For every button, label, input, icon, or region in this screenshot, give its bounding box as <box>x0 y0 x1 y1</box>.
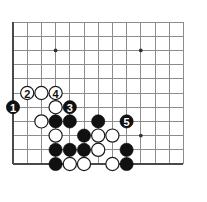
stone-black[interactable]: 5 <box>120 115 133 128</box>
stone-white[interactable] <box>92 143 105 156</box>
move-number-label: 5 <box>124 116 130 128</box>
stone-white[interactable] <box>63 157 76 170</box>
black-stone-disc <box>77 143 90 156</box>
black-stone-disc <box>92 115 105 128</box>
white-stone-disc <box>49 101 62 114</box>
black-stone-disc <box>77 129 90 142</box>
stone-white[interactable] <box>92 129 105 142</box>
star-point <box>54 49 58 53</box>
black-stone-disc <box>49 157 62 170</box>
white-stone-disc <box>35 115 48 128</box>
stone-black[interactable] <box>49 157 62 170</box>
star-point <box>139 49 143 53</box>
stone-black[interactable] <box>63 143 76 156</box>
stone-white[interactable] <box>106 129 119 142</box>
stone-white[interactable]: 2 <box>21 86 34 99</box>
black-stone-disc <box>49 143 62 156</box>
move-number-label: 2 <box>24 88 30 100</box>
black-stone-disc <box>63 115 76 128</box>
black-stone-disc <box>49 115 62 128</box>
stone-black[interactable] <box>49 115 62 128</box>
stone-white[interactable] <box>35 86 48 99</box>
stone-white[interactable]: 4 <box>49 86 62 99</box>
white-stone-disc <box>92 143 105 156</box>
stone-white[interactable] <box>49 129 62 142</box>
go-board-canvas: 24135 <box>0 0 207 202</box>
stone-black[interactable] <box>92 115 105 128</box>
black-stone-disc <box>63 143 76 156</box>
stone-white[interactable] <box>35 115 48 128</box>
stone-black[interactable] <box>77 143 90 156</box>
go-board-diagram: 24135 <box>0 0 207 202</box>
move-number-label: 4 <box>53 88 60 100</box>
stone-black[interactable] <box>77 129 90 142</box>
white-stone-disc <box>77 157 90 170</box>
white-stone-disc <box>49 129 62 142</box>
white-stone-disc <box>106 157 119 170</box>
stone-black[interactable]: 3 <box>63 101 76 114</box>
white-stone-disc <box>35 86 48 99</box>
stone-black[interactable] <box>120 143 133 156</box>
stone-black[interactable] <box>120 157 133 170</box>
stone-black[interactable]: 1 <box>6 101 19 114</box>
stone-white[interactable] <box>77 157 90 170</box>
stone-white[interactable] <box>49 101 62 114</box>
black-stone-disc <box>120 143 133 156</box>
move-number-label: 3 <box>67 102 73 114</box>
white-stone-disc <box>63 157 76 170</box>
stone-white[interactable] <box>106 157 119 170</box>
star-point <box>139 134 143 138</box>
stone-black[interactable] <box>63 115 76 128</box>
white-stone-disc <box>92 129 105 142</box>
move-number-label: 1 <box>10 102 16 114</box>
white-stone-disc <box>106 129 119 142</box>
stone-black[interactable] <box>49 143 62 156</box>
black-stone-disc <box>120 157 133 170</box>
